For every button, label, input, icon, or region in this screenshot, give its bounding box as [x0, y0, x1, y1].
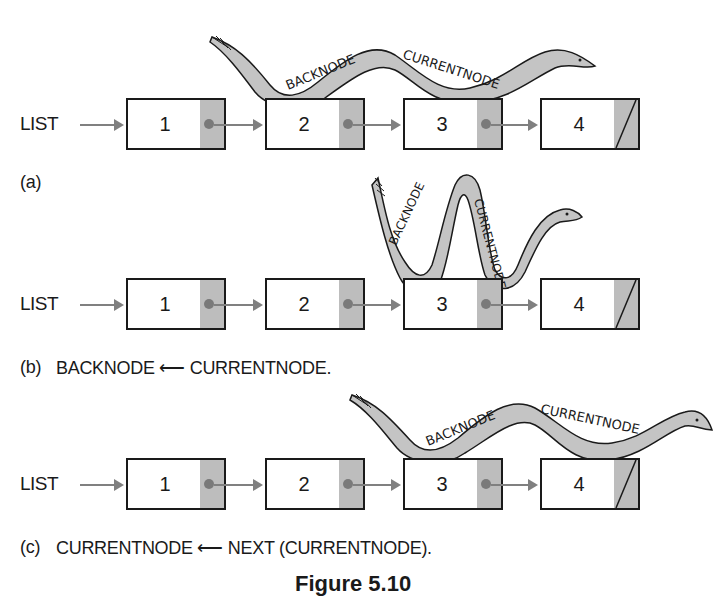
list-node-3: 3: [403, 458, 503, 510]
next-arrow: [214, 484, 261, 486]
pointer-dot-icon: [204, 479, 214, 489]
list-node-4: 4: [540, 458, 640, 510]
node-value: 2: [267, 460, 343, 508]
pointer-dot-icon: [343, 479, 353, 489]
next-arrow: [491, 484, 536, 486]
worm-pointer-illustration: BACKNODE CURRENTNODE: [0, 0, 727, 470]
node-value: 4: [542, 460, 618, 508]
panel-label: (c): [20, 537, 40, 558]
list-head-arrow: [80, 484, 122, 486]
null-slash-icon: [614, 460, 638, 508]
pointer-dot-icon: [481, 479, 491, 489]
panel-c: BACKNODE CURRENTNODE LIST 1 2 3 4 (c) CU…: [0, 0, 727, 560]
node-value: 1: [128, 460, 204, 508]
list-head-label: LIST: [20, 473, 58, 495]
null-pointer-cell: [614, 460, 638, 508]
list-node-1: 1: [126, 458, 226, 510]
list-node-2: 2: [265, 458, 365, 510]
node-value: 3: [405, 460, 481, 508]
figure-caption: Figure 5.10: [295, 571, 411, 597]
panel-statement: CURRENTNODE ⟵ NEXT (CURRENTNODE).: [56, 537, 432, 559]
next-arrow: [353, 484, 399, 486]
